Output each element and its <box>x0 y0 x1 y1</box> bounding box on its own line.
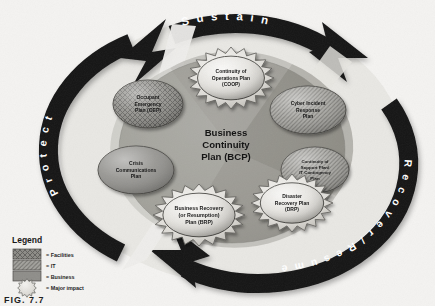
plan-node-highlight <box>198 56 265 100</box>
plan-node-ccp[interactable]: CrisisCommunicationsPlan <box>98 146 174 194</box>
figure-canvas: S u s t a i n P r o t e c t R e c o v e … <box>0 0 435 306</box>
plan-node-highlight <box>98 146 174 194</box>
center-title: Business Continuity Plan (BCP) <box>201 127 251 162</box>
plan-node-highlight <box>270 86 346 134</box>
legend-title: Legend <box>12 235 42 245</box>
legend-label-facilities: = Facilities <box>46 252 74 258</box>
legend-label-it: = IT <box>46 263 56 269</box>
bcp-cycle-diagram: S u s t a i n P r o t e c t R e c o v e … <box>0 0 435 306</box>
plan-node-highlight <box>163 193 235 237</box>
center-title-line-3: Plan (BCP) <box>201 151 251 162</box>
plan-node-oep[interactable]: OccupantEmergencyPlan (OEP) <box>113 80 183 128</box>
legend-label-major-impact: = Major impact <box>46 285 84 291</box>
legend-label-business: = Business <box>46 274 75 280</box>
plan-node-highlight <box>113 80 183 128</box>
center-title-line-2: Continuity <box>202 139 250 150</box>
figure-caption: FIG. 7.7 <box>4 295 45 305</box>
center-title-line-1: Business <box>205 127 248 138</box>
plan-node-cirp[interactable]: Cyber IncidentResponsePlan <box>270 86 346 134</box>
plan-node-highlight <box>260 183 323 223</box>
